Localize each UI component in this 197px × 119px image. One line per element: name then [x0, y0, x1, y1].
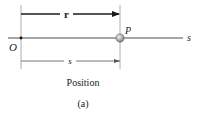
position-diagram: r s O P s Position (a) — [0, 0, 197, 119]
point-p-label: P — [124, 25, 131, 36]
particle-icon — [116, 34, 124, 42]
subfigure-label: (a) — [77, 98, 88, 110]
caption-position: Position — [67, 77, 100, 88]
axis-s-label: s — [187, 32, 191, 43]
origin-label: O — [9, 41, 17, 53]
origin-point — [20, 37, 23, 40]
vector-r-label: r — [64, 8, 69, 20]
distance-s-label: s — [68, 56, 72, 66]
